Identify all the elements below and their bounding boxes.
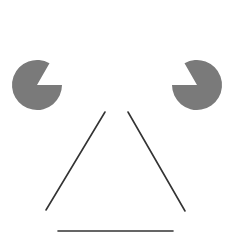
illusory-triangle-figure [0,0,231,237]
left-pacman-shape [12,60,62,110]
right-pacman-shape [172,60,222,110]
left-side-line [46,112,105,210]
right-side-line [128,112,185,211]
